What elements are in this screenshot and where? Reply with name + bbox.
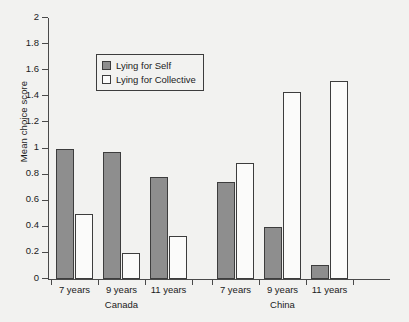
y-tick: 1.8	[42, 43, 48, 44]
bar-lying-for-self	[56, 149, 74, 280]
y-tick: 0.2	[42, 252, 48, 253]
x-tick	[353, 280, 354, 285]
y-tick: 1.2	[42, 121, 48, 122]
x-tick	[145, 280, 146, 285]
y-tick: 1.4	[42, 95, 48, 96]
x-tick-label: 9 years	[106, 284, 137, 295]
bar-lying-for-collective	[122, 253, 140, 279]
x-tick-label: 11 years	[151, 284, 187, 295]
y-tick-label: 0	[34, 272, 39, 283]
y-tick-label: 0.2	[26, 245, 39, 256]
x-tick	[306, 280, 307, 285]
bar-lying-for-self	[103, 152, 121, 279]
legend-swatch-self-icon	[102, 61, 111, 70]
x-tick	[192, 280, 193, 285]
y-tick-label: 1.8	[26, 37, 39, 48]
legend-item-collective: Lying for Collective	[102, 72, 196, 86]
y-tick-label: 1.2	[26, 115, 39, 126]
x-tick-label: 9 years	[267, 284, 298, 295]
y-tick-label: 1.4	[26, 89, 39, 100]
bar-lying-for-collective	[330, 81, 348, 279]
bar-lying-for-self	[311, 265, 329, 279]
bar-lying-for-collective	[283, 92, 301, 279]
bar-lying-for-self	[217, 182, 235, 279]
bar-lying-for-collective	[75, 214, 93, 279]
y-axis-line	[48, 18, 49, 280]
y-tick-label: 2	[34, 11, 39, 22]
group-label-canada: Canada	[105, 299, 138, 310]
y-tick: 0	[42, 278, 48, 279]
y-tick: 0.4	[42, 226, 48, 227]
group-label-china: China	[270, 299, 295, 310]
x-tick	[212, 280, 213, 285]
x-axis-line	[48, 279, 390, 280]
x-tick-label: 7 years	[59, 284, 90, 295]
y-tick-label: 0.8	[26, 167, 39, 178]
legend-label-collective: Lying for Collective	[116, 74, 196, 85]
y-tick-label: 0.4	[26, 219, 39, 230]
y-tick: 2	[42, 17, 48, 18]
y-tick: 0.8	[42, 174, 48, 175]
bar-lying-for-collective	[169, 236, 187, 279]
x-tick	[98, 280, 99, 285]
y-tick: 1	[42, 148, 48, 149]
legend-item-self: Lying for Self	[102, 58, 196, 72]
legend-label-self: Lying for Self	[116, 60, 171, 71]
x-tick-label: 11 years	[312, 284, 348, 295]
x-tick	[259, 280, 260, 285]
bar-lying-for-self	[150, 177, 168, 279]
y-tick-label: 1	[34, 141, 39, 152]
y-tick: 1.6	[42, 69, 48, 70]
bar-lying-for-self	[264, 227, 282, 279]
legend-swatch-collective-icon	[102, 75, 111, 84]
bar-chart: Mean choice score 00.20.40.60.811.21.41.…	[0, 0, 409, 322]
x-tick	[51, 280, 52, 285]
y-tick: 0.6	[42, 200, 48, 201]
legend: Lying for Self Lying for Collective	[96, 54, 204, 91]
bar-lying-for-collective	[236, 163, 254, 279]
x-tick-label: 7 years	[220, 284, 251, 295]
y-tick-label: 1.6	[26, 63, 39, 74]
y-tick-label: 0.6	[26, 193, 39, 204]
